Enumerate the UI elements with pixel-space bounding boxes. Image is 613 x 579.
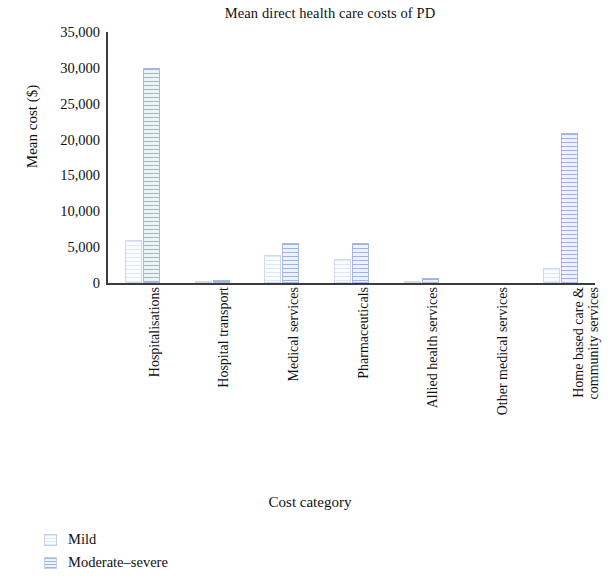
bar-moderate-severe xyxy=(561,133,578,283)
legend-item: Mild xyxy=(44,528,168,551)
legend-swatch-mod xyxy=(44,557,57,569)
bar-moderate-severe xyxy=(213,280,230,283)
bar-group xyxy=(525,32,595,283)
y-tick-label: 30,000 xyxy=(24,61,100,76)
bar-group xyxy=(386,32,456,283)
chart-figure: Mean direct health care costs of PD Mean… xyxy=(0,0,613,579)
bar-groups xyxy=(108,32,595,283)
x-tick-label-line: community services xyxy=(587,287,602,477)
x-tick-label: Home based care &community services xyxy=(572,287,601,477)
bar-mild xyxy=(334,259,351,283)
x-tick-label: Allied health services xyxy=(426,287,441,477)
y-tick-label: 35,000 xyxy=(24,25,100,40)
x-tick-label-line: Hospital transport xyxy=(217,287,232,477)
legend-swatch-mild xyxy=(44,534,57,546)
bar-mild xyxy=(543,268,560,283)
bar-moderate-severe xyxy=(143,68,160,283)
bar-moderate-severe xyxy=(352,243,369,283)
plot-area: 35,00030,00025,00020,00015,00010,0005,00… xyxy=(106,32,595,283)
bar-group xyxy=(317,32,387,283)
x-tick-label: Other medical services xyxy=(496,287,511,477)
x-tick-label-line: Home based care & xyxy=(572,287,587,477)
x-axis-title: Cost category xyxy=(170,494,450,511)
chart-legend: MildModerate–severe xyxy=(44,528,168,574)
y-tick-label: 25,000 xyxy=(24,97,100,112)
x-tick-label-line: Other medical services xyxy=(496,287,511,477)
bar-group xyxy=(247,32,317,283)
x-tick-label: Hospital transport xyxy=(217,287,232,477)
chart-title: Mean direct health care costs of PD xyxy=(120,5,540,22)
bar-mild xyxy=(125,240,142,283)
y-tick-label: 5,000 xyxy=(24,240,100,255)
bar-moderate-severe xyxy=(282,243,299,283)
bar-group xyxy=(108,32,178,283)
y-tick-label: 20,000 xyxy=(24,133,100,148)
x-tick-label-line: Allied health services xyxy=(426,287,441,477)
bar-moderate-severe xyxy=(422,278,439,283)
x-tick-label-line: Hospitalisations xyxy=(148,287,163,477)
legend-label: Moderate–severe xyxy=(68,554,168,571)
bar-group xyxy=(178,32,248,283)
x-tick-label: Hospitalisations xyxy=(148,287,163,477)
legend-item: Moderate–severe xyxy=(44,551,168,574)
x-tick-label-line: Medical services xyxy=(287,287,302,477)
y-tick-label: 10,000 xyxy=(24,204,100,219)
x-tick-label: Pharmaceuticals xyxy=(357,287,372,477)
bar-mild xyxy=(195,281,212,283)
x-axis-tick-labels: HospitalisationsHospital transportMedica… xyxy=(106,287,595,482)
bar-mild xyxy=(264,255,281,283)
x-axis-line xyxy=(106,283,595,285)
x-tick-label: Medical services xyxy=(287,287,302,477)
bar-mild xyxy=(404,281,421,283)
y-tick-label: 15,000 xyxy=(24,168,100,183)
legend-label: Mild xyxy=(68,531,96,548)
y-tick-label: 0 xyxy=(24,276,100,291)
bar-group xyxy=(456,32,526,283)
x-tick-label-line: Pharmaceuticals xyxy=(357,287,372,477)
